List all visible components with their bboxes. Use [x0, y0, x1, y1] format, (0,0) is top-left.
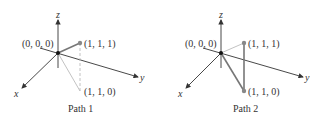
x-axis-label: x: [177, 88, 183, 99]
z-axis-label: z: [55, 9, 60, 20]
guide-origin-to-p111: [221, 43, 244, 53]
panel-path-1: z y x (0, 0, 0) (1, 1, 1) (1, 1, 0) Path…: [13, 9, 145, 114]
point-p111: [78, 41, 82, 45]
z-axis-label: z: [218, 9, 223, 20]
origin-label: (0, 0, 0): [22, 38, 54, 50]
panel-caption: Path 1: [68, 103, 93, 114]
panel-caption: Path 2: [233, 103, 258, 114]
point-p110: [242, 89, 246, 93]
p111-label: (1, 1, 1): [84, 38, 116, 50]
x-axis: [186, 53, 221, 88]
figure: z y x (0, 0, 0) (1, 1, 1) (1, 1, 0) Path…: [0, 0, 319, 122]
y-axis-label: y: [139, 72, 145, 83]
y-axis: [203, 48, 303, 77]
p111-label: (1, 1, 1): [248, 38, 280, 50]
panel-path-2-body: z y x (0, 0, 0) (1, 1, 1) (1, 1, 0) Path…: [177, 9, 310, 114]
path-segment-origin-to-p111: [58, 43, 80, 53]
x-axis: [22, 53, 58, 88]
point-p111: [242, 41, 246, 45]
y-axis-label: y: [304, 72, 310, 83]
x-axis-label: x: [13, 88, 19, 99]
origin-point: [219, 51, 223, 55]
origin-point: [56, 51, 60, 55]
p110-label: (1, 1, 0): [84, 86, 116, 98]
p110-label: (1, 1, 0): [248, 86, 280, 98]
y-axis: [40, 48, 138, 77]
origin-label: (0, 0, 0): [185, 38, 217, 50]
